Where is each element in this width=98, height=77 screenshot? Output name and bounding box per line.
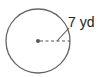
center-point (36, 39, 40, 43)
circle-diagram: 7 yd (0, 0, 98, 77)
radius-label: 7 yd (68, 14, 94, 30)
